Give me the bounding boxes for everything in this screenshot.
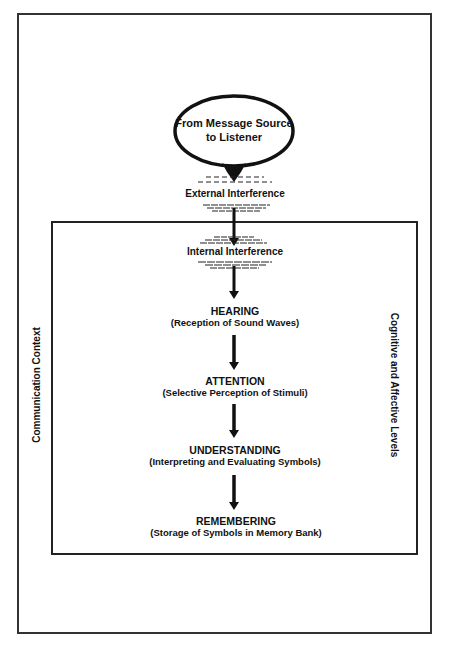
arrow-head-hearing-to-attention — [229, 362, 239, 370]
stage-understanding-title: UNDERSTANDING — [149, 444, 321, 456]
message-source-line2: to Listener — [175, 130, 292, 144]
external-interference-lines-lower — [203, 205, 270, 211]
stage-attention: ATTENTION (Selective Perception of Stimu… — [162, 375, 307, 399]
arrow-head-internal-to-hearing — [229, 291, 239, 299]
message-source-label: From Message Source to Listener — [175, 116, 292, 144]
stage-remembering-subtitle: (Storage of Symbols in Memory Bank) — [150, 527, 322, 539]
arrow-head-attention-to-understanding — [229, 430, 239, 438]
external-interference-label: External Interference — [185, 188, 285, 200]
cognitive-affective-levels-label: Cognitive and Affective Levels — [389, 313, 400, 458]
stage-understanding: UNDERSTANDING (Interpreting and Evaluati… — [149, 444, 321, 468]
internal-interference-label: Internal Interference — [187, 246, 283, 258]
stage-hearing: HEARING (Reception of Sound Waves) — [171, 305, 299, 329]
stage-remembering: REMEMBERING (Storage of Symbols in Memor… — [150, 515, 322, 539]
arrow-head-understanding-to-remembering — [229, 502, 239, 510]
arrow-head-external-to-internal — [229, 238, 239, 246]
message-source-line1: From Message Source — [175, 116, 292, 130]
stage-hearing-subtitle: (Reception of Sound Waves) — [171, 317, 299, 329]
stage-attention-subtitle: (Selective Perception of Stimuli) — [162, 387, 307, 399]
stage-hearing-title: HEARING — [171, 305, 299, 317]
stage-attention-title: ATTENTION — [162, 375, 307, 387]
stage-understanding-subtitle: (Interpreting and Evaluating Symbols) — [149, 456, 321, 468]
stage-remembering-title: REMEMBERING — [150, 515, 322, 527]
communication-context-label: Communication Context — [31, 327, 42, 443]
